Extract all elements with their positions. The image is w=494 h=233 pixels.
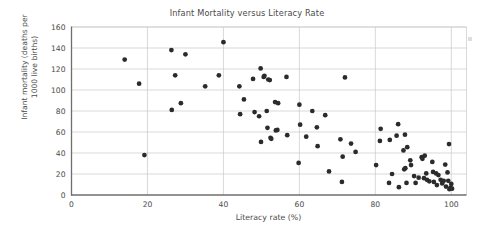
y-tick-label: 20 bbox=[56, 170, 66, 179]
data-point bbox=[424, 171, 429, 176]
data-point bbox=[216, 73, 221, 78]
y-tick-labels: 020406080100120140160 bbox=[51, 23, 66, 200]
data-point bbox=[183, 52, 188, 57]
x-tick-label: 80 bbox=[371, 200, 381, 209]
data-point bbox=[340, 154, 345, 159]
data-point bbox=[445, 170, 450, 175]
data-point bbox=[259, 140, 264, 145]
data-point bbox=[267, 78, 272, 83]
data-point bbox=[327, 169, 332, 174]
data-point bbox=[179, 101, 184, 106]
data-point bbox=[297, 102, 302, 107]
data-point bbox=[238, 112, 243, 117]
data-point bbox=[408, 158, 413, 163]
data-point bbox=[137, 81, 142, 86]
data-point bbox=[387, 138, 392, 143]
y-tick-label: 140 bbox=[51, 44, 66, 53]
data-point bbox=[258, 66, 263, 71]
x-tick-label: 60 bbox=[295, 200, 305, 209]
data-point bbox=[142, 153, 147, 158]
y-tick-label: 0 bbox=[61, 191, 66, 200]
y-tick-label: 40 bbox=[56, 149, 66, 158]
y-tick-label: 80 bbox=[56, 107, 66, 116]
data-point bbox=[427, 179, 432, 184]
data-point bbox=[314, 125, 319, 130]
data-point bbox=[441, 178, 446, 183]
y-tick-label: 100 bbox=[51, 86, 66, 95]
data-point bbox=[401, 148, 406, 153]
data-point bbox=[203, 84, 208, 89]
y-tick-label: 60 bbox=[56, 128, 66, 137]
data-point bbox=[396, 122, 401, 127]
data-point bbox=[404, 181, 409, 186]
data-point bbox=[436, 173, 441, 178]
data-point bbox=[416, 175, 421, 180]
data-point bbox=[449, 182, 454, 187]
data-point bbox=[284, 75, 289, 80]
data-point bbox=[285, 133, 290, 138]
data-point bbox=[412, 174, 417, 179]
data-point bbox=[340, 180, 345, 185]
data-point bbox=[221, 40, 226, 45]
y-tick-label: 160 bbox=[51, 23, 66, 32]
data-point bbox=[296, 161, 301, 166]
data-point bbox=[251, 77, 256, 82]
data-point bbox=[443, 162, 448, 167]
data-point bbox=[378, 126, 383, 131]
scatter-plot-figure: Infant Mortality versus Literacy Rate In… bbox=[0, 0, 494, 233]
data-point bbox=[378, 139, 383, 144]
data-point bbox=[169, 108, 174, 113]
data-point bbox=[315, 144, 320, 149]
data-point bbox=[450, 186, 455, 191]
data-point bbox=[403, 132, 408, 137]
y-tick-label: 120 bbox=[51, 65, 66, 74]
data-point bbox=[353, 150, 358, 155]
data-point bbox=[387, 181, 392, 186]
x-tick-label: 100 bbox=[444, 200, 459, 209]
data-point bbox=[397, 185, 402, 190]
x-tick-label: 40 bbox=[219, 200, 229, 209]
data-point bbox=[349, 141, 354, 146]
data-point bbox=[323, 113, 328, 118]
data-point bbox=[275, 128, 280, 133]
data-point bbox=[252, 110, 257, 115]
data-point bbox=[403, 166, 408, 171]
data-point bbox=[173, 73, 178, 78]
data-point bbox=[265, 125, 270, 130]
x-tick-label: 20 bbox=[143, 200, 153, 209]
data-point bbox=[262, 73, 267, 78]
data-point bbox=[338, 137, 343, 142]
data-point-series bbox=[122, 40, 454, 192]
x-tick-labels: 020406080100 bbox=[69, 200, 459, 209]
data-point bbox=[122, 57, 127, 62]
data-point bbox=[343, 75, 348, 80]
data-point bbox=[413, 181, 418, 186]
plot-canvas: 020406080100120140160 020406080100 bbox=[0, 0, 494, 233]
corner-artifact-mark bbox=[468, 37, 472, 41]
data-point bbox=[264, 109, 269, 114]
data-point bbox=[422, 153, 427, 158]
data-point bbox=[237, 84, 242, 89]
data-point bbox=[435, 183, 440, 188]
data-point bbox=[390, 172, 395, 177]
data-point bbox=[257, 114, 262, 119]
data-point bbox=[276, 101, 281, 106]
data-point bbox=[242, 97, 247, 102]
data-point bbox=[269, 136, 274, 141]
data-point bbox=[447, 142, 452, 147]
data-point bbox=[430, 160, 435, 165]
data-point bbox=[394, 133, 399, 138]
data-point bbox=[405, 145, 410, 150]
data-point bbox=[169, 48, 174, 53]
data-point bbox=[374, 163, 379, 168]
data-point bbox=[310, 109, 315, 114]
x-tick-label: 0 bbox=[69, 200, 74, 209]
data-point bbox=[298, 122, 303, 127]
data-point bbox=[304, 134, 309, 139]
data-point bbox=[409, 163, 414, 168]
